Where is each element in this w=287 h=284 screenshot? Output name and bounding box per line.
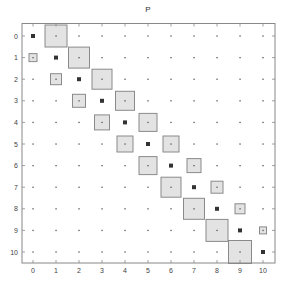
cell-dot [55,143,56,144]
cell-dot [170,230,171,231]
y-tick-label: 7 [14,184,18,191]
x-tick-label: 4 [123,267,127,274]
cell-dot [170,187,171,188]
cell-dot [32,165,33,166]
y-tick-label: 1 [14,54,18,61]
cell-dot [216,57,217,58]
x-tick-label: 1 [54,267,58,274]
cell-dot [78,100,79,101]
cell-dot [262,35,263,36]
cell-dot [55,35,56,36]
cell-dot [239,100,240,101]
cell-dot [124,230,125,231]
diagonal-marker [169,164,173,168]
cell-dot [78,143,79,144]
cell-dot [170,35,171,36]
cell-dot [78,35,79,36]
diagonal-marker [31,34,35,38]
cell-dot [170,122,171,123]
cell-dot [55,122,56,123]
cell-dot [216,187,217,188]
cell-dot [216,230,217,231]
cell-dot [170,57,171,58]
cell-dot [262,230,263,231]
x-tick-label: 5 [146,267,150,274]
cell-dot [170,79,171,80]
cell-dot [78,122,79,123]
cell-dot [239,208,240,209]
cell-dot [147,35,148,36]
x-tick-label: 7 [192,267,196,274]
diagonal-marker [192,185,196,189]
cell-dot [78,208,79,209]
cell-dot [193,251,194,252]
cell-dot [239,57,240,58]
cell-dot [262,187,263,188]
cell-dot [193,143,194,144]
cell-dot [32,122,33,123]
cell-dot [55,230,56,231]
cell-dot [124,208,125,209]
cell-dot [101,79,102,80]
cell-dot [147,79,148,80]
cell-dot [147,187,148,188]
y-tick-label: 9 [14,227,18,234]
cell-dot [101,251,102,252]
cell-dot [193,100,194,101]
cell-dot [101,35,102,36]
cell-dot [32,57,33,58]
y-axis-labels: 012345678910 [10,33,18,256]
cell-dot [239,165,240,166]
cell-dot [124,187,125,188]
y-tick-label: 5 [14,141,18,148]
cell-dot [193,230,194,231]
cell-dot [124,57,125,58]
cell-dot [124,251,125,252]
cell-dot [239,143,240,144]
cell-dot [239,35,240,36]
cell-dot [124,165,125,166]
cell-dot [262,165,263,166]
diagonal-marker [215,207,219,211]
cell-dot [78,57,79,58]
hinton-chart: P 012345678910 012345678910 [0,0,287,284]
cell-dot [55,79,56,80]
y-tick-label: 8 [14,205,18,212]
cell-dot [32,251,33,252]
cell-dot [239,187,240,188]
x-tick-label: 2 [77,267,81,274]
cell-dot [55,208,56,209]
cell-dot [101,143,102,144]
cell-dot [216,143,217,144]
cell-dot [124,100,125,101]
cell-dot [78,251,79,252]
diagonal-marker [238,228,242,232]
cell-dot [170,143,171,144]
cell-dot [124,143,125,144]
cell-dot [262,122,263,123]
cell-dot [216,251,217,252]
x-tick-label: 8 [215,267,219,274]
y-tick-label: 2 [14,76,18,83]
x-tick-label: 6 [169,267,173,274]
diagonal-marker [54,56,58,60]
cell-dot [239,79,240,80]
y-tick-label: 3 [14,97,18,104]
cell-dot [216,79,217,80]
cell-dot [101,57,102,58]
cell-dot [147,100,148,101]
cell-dot [124,35,125,36]
cell-dot [55,165,56,166]
cell-dot [147,230,148,231]
plot-cells [29,25,267,264]
diagonal-marker [100,99,104,103]
cell-dot [55,100,56,101]
x-tick-label: 9 [238,267,242,274]
cell-dot [193,122,194,123]
cell-dot [32,100,33,101]
cell-dot [147,57,148,58]
cell-dot [101,122,102,123]
cell-dot [216,122,217,123]
cell-dot [193,208,194,209]
x-axis-labels: 012345678910 [31,267,267,274]
